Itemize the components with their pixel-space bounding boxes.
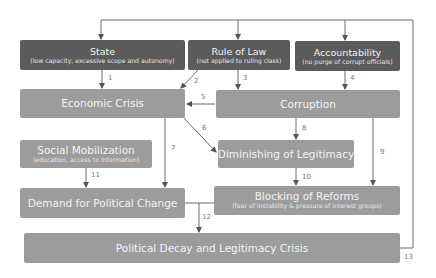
node-subtitle: (not applied to ruling class): [197, 57, 282, 65]
node-title: Blocking of Reforms: [255, 191, 360, 202]
node-corruption: Corruption: [216, 90, 400, 118]
node-accountability: Accountability (no purge of corrupt offi…: [295, 41, 400, 71]
edge-label-11: 11: [91, 171, 100, 179]
edge-label-1: 1: [108, 74, 112, 82]
node-title: State: [90, 46, 115, 57]
edge-label-5: 5: [201, 93, 205, 101]
edge-label-13: 13: [404, 253, 413, 261]
edge-label-4: 4: [350, 74, 354, 82]
node-title: Economic Crisis: [61, 98, 144, 109]
node-political-decay: Political Decay and Legitimacy Crisis: [24, 233, 400, 263]
edge-label-2: 2: [194, 77, 198, 85]
edge-label-7: 7: [171, 144, 175, 152]
node-title: Rule of Law: [212, 46, 267, 57]
node-blocking-reforms: Blocking of Reforms (fear of instability…: [214, 186, 400, 215]
node-demand-political-change: Demand for Political Change: [20, 188, 185, 218]
node-title: Social Mobilization: [37, 145, 134, 156]
node-social-mobilization: Social Mobilization (education, access t…: [20, 140, 152, 168]
node-subtitle: (low capacity, excessive scope and auton…: [30, 57, 175, 65]
node-title: Diminishing of Legitimacy: [218, 149, 354, 160]
edge-label-10: 10: [302, 173, 311, 181]
node-state: State (low capacity, excessive scope and…: [20, 40, 185, 70]
node-subtitle: (education, access to information): [33, 156, 139, 164]
node-rule-of-law: Rule of Law (not applied to ruling class…: [188, 40, 290, 70]
edge-label-6: 6: [202, 124, 206, 132]
node-economic-crisis: Economic Crisis: [20, 89, 185, 118]
node-diminishing-legitimacy: Diminishing of Legitimacy: [218, 140, 354, 168]
edge-label-12: 12: [202, 213, 211, 221]
node-title: Corruption: [280, 99, 336, 110]
edge-label-8: 8: [302, 124, 306, 132]
node-title: Demand for Political Change: [28, 198, 178, 209]
node-title: Accountability: [314, 47, 381, 58]
node-title: Political Decay and Legitimacy Crisis: [116, 243, 308, 254]
edge-label-3: 3: [243, 74, 247, 82]
edge-label-9: 9: [380, 148, 384, 156]
node-subtitle: (no purge of corrupt officials): [302, 58, 392, 66]
node-subtitle: (fear of instability & pressure of inter…: [232, 202, 382, 210]
